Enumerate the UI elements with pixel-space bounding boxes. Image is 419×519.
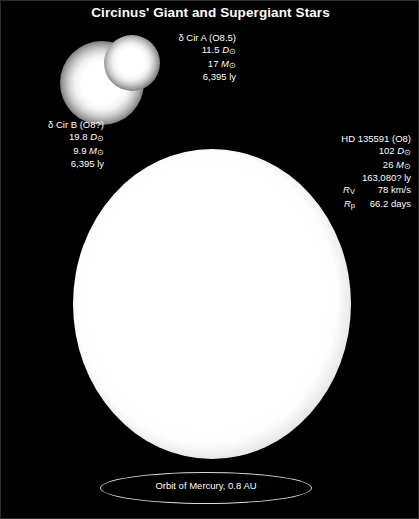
solar-subscript-icon: ⊙	[97, 134, 104, 143]
label-delta-cir-a: δ Cir A (O8.5) 11.5 D⊙ 17 M⊙ 6,395 ly	[148, 32, 236, 83]
delta-cir-a-distance: 6,395 ly	[148, 71, 236, 83]
delta-cir-a-diameter-value: 11.5	[202, 44, 220, 55]
star-disc-delta-cir-b	[60, 41, 144, 125]
delta-cir-a-diameter: 11.5 D⊙	[148, 44, 236, 58]
delta-cir-a-mass-value: 17	[208, 58, 219, 69]
delta-cir-b-mass-value: 9.9	[73, 145, 86, 156]
solar-diameter-symbol: D	[90, 131, 97, 142]
rotation-period-value: 66.2 days	[355, 198, 411, 210]
rotation-period-symbol: R	[344, 198, 351, 209]
hd-135591-mass: 26 M⊙	[299, 159, 411, 173]
delta-cir-b-diameter: 19.8 D⊙	[9, 131, 104, 145]
solar-subscript-icon: ⊙	[229, 47, 236, 56]
delta-cir-b-name: δ Cir B (O8?)	[9, 119, 104, 131]
hd-135591-rotation-period: Rp66.2 days	[299, 198, 411, 212]
solar-subscript-icon: ⊙	[229, 61, 236, 70]
delta-cir-b-mass: 9.9 M⊙	[9, 145, 104, 159]
hd-135591-diameter-value: 102	[379, 145, 395, 156]
solar-mass-symbol: M	[89, 145, 97, 156]
delta-cir-a-name: δ Cir A (O8.5)	[148, 32, 236, 44]
delta-cir-b-diameter-value: 19.8	[69, 131, 88, 142]
rotation-velocity-symbol: R	[343, 184, 350, 195]
delta-cir-b-distance: 6,395 ly	[9, 158, 104, 170]
figure-canvas: Circinus' Giant and Supergiant Stars δ C…	[0, 0, 419, 519]
solar-mass-symbol: M	[396, 159, 404, 170]
label-delta-cir-b: δ Cir B (O8?) 19.8 D⊙ 9.9 M⊙ 6,395 ly	[9, 119, 104, 170]
solar-subscript-icon: ⊙	[404, 162, 411, 171]
orbit-of-mercury-label: Orbit of Mercury, 0.8 AU	[100, 480, 312, 491]
rotation-period-key: Rp	[321, 198, 355, 212]
solar-mass-symbol: M	[221, 58, 229, 69]
hd-135591-mass-value: 26	[383, 159, 394, 170]
hd-135591-diameter: 102 D⊙	[299, 145, 411, 159]
rotation-velocity-key: RV	[321, 184, 355, 198]
hd-135591-rotation-velocity: RV78 km/s	[299, 184, 411, 198]
rotation-velocity-value: 78 km/s	[355, 184, 411, 196]
delta-cir-a-mass: 17 M⊙	[148, 58, 236, 72]
figure-title: Circinus' Giant and Supergiant Stars	[1, 5, 419, 20]
label-hd-135591: HD 135591 (O8) 102 D⊙ 26 M⊙ 163,080? ly …	[299, 133, 411, 212]
hd-135591-distance: 163,080? ly	[299, 172, 411, 184]
solar-subscript-icon: ⊙	[404, 148, 411, 157]
solar-diameter-symbol: D	[222, 44, 229, 55]
solar-subscript-icon: ⊙	[97, 148, 104, 157]
hd-135591-name: HD 135591 (O8)	[299, 133, 411, 145]
solar-diameter-symbol: D	[397, 145, 404, 156]
